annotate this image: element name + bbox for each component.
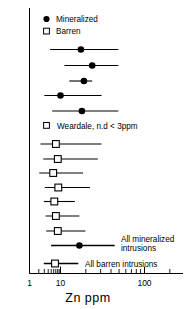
marker-open-square-icon bbox=[44, 123, 50, 129]
marker-filled-circle-icon bbox=[57, 92, 64, 99]
marker-filled-circle-icon bbox=[81, 78, 88, 85]
data-row bbox=[46, 213, 80, 220]
data-row-all-mineralized bbox=[51, 242, 115, 249]
annotation-weardale: Weardale, n.d < 3ppm bbox=[44, 122, 138, 131]
data-row bbox=[39, 170, 83, 177]
legend-label-mineralized: Mineralized bbox=[56, 15, 98, 24]
data-row-all-barren bbox=[44, 260, 79, 267]
legend-label-barren: Barren bbox=[56, 27, 81, 36]
data-row bbox=[64, 62, 118, 69]
data-row bbox=[41, 141, 102, 148]
data-row bbox=[69, 78, 92, 85]
legend-marker-mineralized-filled-circle-icon bbox=[43, 16, 49, 22]
marker-open-square-icon bbox=[52, 260, 59, 267]
all-mineralized-label-line2: intrusions bbox=[121, 244, 156, 253]
data-row bbox=[45, 184, 90, 191]
data-row bbox=[44, 198, 75, 205]
summary-labels: All mineralized intrusions All barren in… bbox=[85, 235, 175, 269]
legend-marker-barren-open-square-icon bbox=[44, 28, 50, 34]
x-tick-label-10: 10 bbox=[56, 278, 66, 288]
marker-open-square-icon bbox=[50, 170, 57, 177]
x-tick-label-100: 100 bbox=[137, 278, 151, 288]
marker-filled-circle-icon bbox=[89, 62, 96, 69]
data-row bbox=[50, 46, 118, 53]
legend: Mineralized Barren bbox=[43, 15, 98, 36]
x-tick-label-1: 1 bbox=[27, 278, 32, 288]
marker-open-square-icon bbox=[54, 228, 61, 235]
marker-open-square-icon bbox=[54, 156, 61, 163]
x-axis-title: Zn ppm bbox=[65, 291, 110, 305]
x-axis-minor-ticks bbox=[39, 269, 170, 274]
zinc-ppm-dot-whisker-chart: 1 10 100 Zn ppm Mineralized Barren bbox=[0, 0, 190, 309]
marker-filled-circle-icon bbox=[78, 46, 85, 53]
all-barren-label: All barren intrusions bbox=[85, 260, 157, 269]
marker-open-square-icon bbox=[53, 141, 60, 148]
marker-open-square-icon bbox=[53, 213, 60, 220]
all-mineralized-label-line1: All mineralized bbox=[121, 235, 175, 244]
data-row bbox=[46, 228, 85, 235]
data-row bbox=[52, 108, 118, 115]
marker-filled-circle-icon bbox=[76, 242, 83, 249]
figure-container: 1 10 100 Zn ppm Mineralized Barren bbox=[0, 0, 190, 309]
marker-open-square-icon bbox=[51, 198, 58, 205]
series-barren bbox=[39, 141, 101, 267]
data-row bbox=[43, 156, 98, 163]
data-row bbox=[44, 92, 101, 99]
marker-filled-circle-icon bbox=[79, 108, 86, 115]
annotation-weardale-label: Weardale, n.d < 3ppm bbox=[57, 122, 138, 131]
marker-open-square-icon bbox=[55, 184, 62, 191]
